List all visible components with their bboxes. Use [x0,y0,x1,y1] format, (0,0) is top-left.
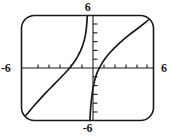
axis-label-bottom: -6 [0,122,175,134]
axis-label-top: 6 [0,1,175,13]
axis-label-right: 6 [161,62,167,74]
graph-figure: 6 -6 -6 6 [0,0,175,137]
plot-canvas [0,0,175,137]
axis-label-left: -6 [1,62,10,74]
